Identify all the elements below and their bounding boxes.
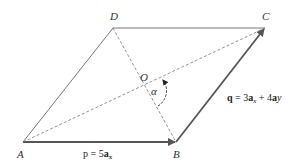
label-C: C: [262, 10, 270, 22]
side-AD: [23, 28, 113, 142]
label-O: O: [140, 71, 148, 83]
diagonal-AC: [23, 28, 265, 142]
label-alpha: α: [151, 85, 157, 97]
vector-q-arrow: [176, 29, 264, 142]
label-D: D: [109, 10, 118, 22]
angle-arc: [158, 80, 167, 106]
label-B: B: [173, 148, 180, 160]
vector-p-label: p = 5ax: [83, 148, 113, 161]
parallelogram-diagram: D C O α A B p = 5ax q = 3ax + 4ay: [0, 0, 295, 167]
label-A: A: [16, 148, 24, 160]
vector-q-label: q = 3ax + 4ay: [227, 92, 282, 105]
diagonal-DB: [113, 28, 176, 142]
